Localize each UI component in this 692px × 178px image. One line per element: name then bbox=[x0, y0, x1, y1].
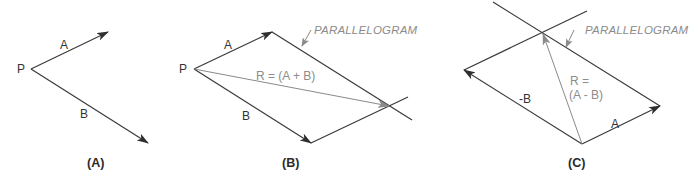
panel-c: A -B R = (A - B) PARALLELOGRAM (C) bbox=[464, 2, 689, 170]
origin-label: P bbox=[17, 62, 25, 76]
origin-label: P bbox=[179, 62, 187, 76]
panel-caption: (C) bbox=[568, 156, 585, 170]
vector-b-label: B bbox=[242, 109, 250, 123]
parallelogram-callout: PARALLELOGRAM bbox=[585, 24, 689, 36]
vector-addition-diagram: P A B (A) P A B R = (A + B) PARALLELOGRA… bbox=[0, 0, 692, 178]
vector-b-label: B bbox=[80, 107, 88, 121]
vector-neg-b-arrow bbox=[464, 70, 582, 144]
vector-a-label: A bbox=[224, 38, 232, 52]
vector-a-label: A bbox=[60, 38, 68, 52]
vector-a-label: A bbox=[611, 117, 619, 131]
resultant-label-line1: R = bbox=[570, 74, 589, 88]
parallelogram-callout: PARALLELOGRAM bbox=[314, 24, 418, 36]
panel-caption: (B) bbox=[282, 156, 299, 170]
vector-a-arrow bbox=[31, 32, 108, 69]
vector-neg-b-label: -B bbox=[519, 92, 531, 106]
resultant-label-line2: (A - B) bbox=[569, 88, 603, 102]
vector-a-arrow bbox=[582, 106, 660, 144]
parallelogram-side-line bbox=[311, 97, 408, 143]
panel-b: P A B R = (A + B) PARALLELOGRAM (B) bbox=[179, 24, 418, 170]
vector-a-arrow bbox=[194, 32, 272, 69]
callout-leader-arrow bbox=[566, 30, 574, 47]
callout-leader-arrow bbox=[302, 30, 311, 46]
panel-caption: (A) bbox=[87, 156, 104, 170]
resultant-label: R = (A + B) bbox=[256, 69, 315, 83]
vector-b-arrow bbox=[31, 69, 148, 143]
panel-a: P A B (A) bbox=[17, 32, 148, 170]
